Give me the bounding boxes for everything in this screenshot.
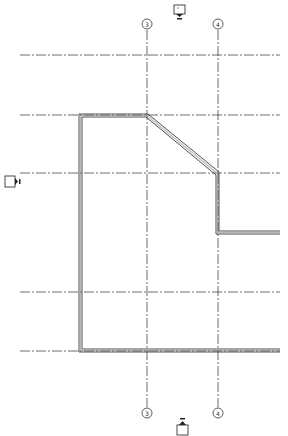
horizontal-grid-lines: [20, 55, 280, 351]
wall-fill: [81, 116, 281, 351]
drawing-canvas[interactable]: 3 4 3 4: [0, 0, 288, 436]
grid-bubble-label: 3: [145, 410, 149, 417]
grid-bubble-4-top[interactable]: 4: [213, 19, 223, 29]
grid-bubble-3-bottom[interactable]: 3: [142, 408, 152, 418]
elevation-marker-bottom[interactable]: [177, 418, 188, 435]
wall-upper-inner[interactable]: [82, 117, 280, 234]
grid-bubble-3-top[interactable]: 3: [142, 19, 152, 29]
elevation-marker-top[interactable]: [174, 5, 185, 20]
grid-bubble-label: 4: [216, 21, 220, 28]
grid-bubble-label: 3: [145, 21, 149, 28]
elevation-marker-left[interactable]: [5, 176, 21, 187]
grid-bubble-label: 4: [216, 410, 220, 417]
grid-bubble-4-bottom[interactable]: 4: [213, 408, 223, 418]
wall-upper-outer[interactable]: [79, 114, 280, 231]
